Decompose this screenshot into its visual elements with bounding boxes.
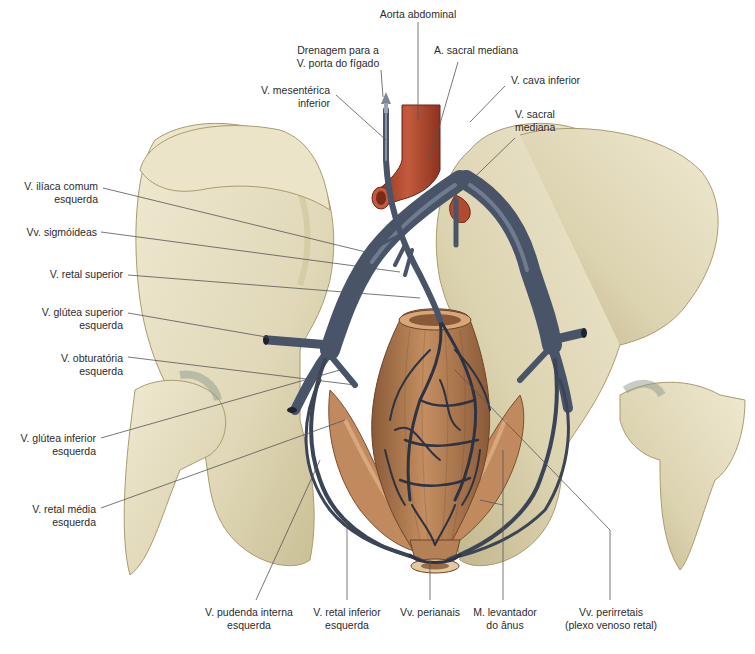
label-iliaca-comum: V. ilíaca comumesquerda	[0, 180, 98, 206]
label-retal-media: V. retal médiaesquerda	[0, 503, 96, 529]
label-sacral-vein: V. sacralmediana	[515, 108, 555, 134]
label-retal-superior: V. retal superior	[0, 268, 123, 281]
label-glutea-superior: V. glútea superioresquerda	[0, 306, 123, 332]
label-sacral-art: A. sacral mediana	[434, 44, 518, 57]
label-aorta-abdominal: Aorta abdominal	[380, 8, 456, 21]
label-cava-inferior: V. cava inferior	[511, 74, 580, 87]
label-obturatoria: V. obturatóriaesquerda	[0, 352, 123, 378]
label-mesenterica: V. mesentéricainferior	[260, 84, 330, 110]
label-glutea-inferior: V. glútea inferioresquerda	[0, 432, 96, 458]
anatomy-figure: Aorta abdominal Drenagem para aV. porta …	[0, 0, 755, 654]
label-sigmoideas: Vv. sigmóideas	[0, 226, 97, 239]
label-retal-inferior: V. retal inferioresquerda	[313, 606, 380, 632]
label-perianais: Vv. perianais	[400, 606, 460, 619]
label-pudenda-interna: V. pudenda internaesquerda	[205, 606, 293, 632]
label-drenagem: Drenagem para aV. porta do fígado	[297, 44, 380, 70]
label-levantador: M. levantadordo ânus	[473, 606, 537, 632]
label-perirretais: Vv. perirretais(plexo venoso retal)	[565, 606, 657, 632]
